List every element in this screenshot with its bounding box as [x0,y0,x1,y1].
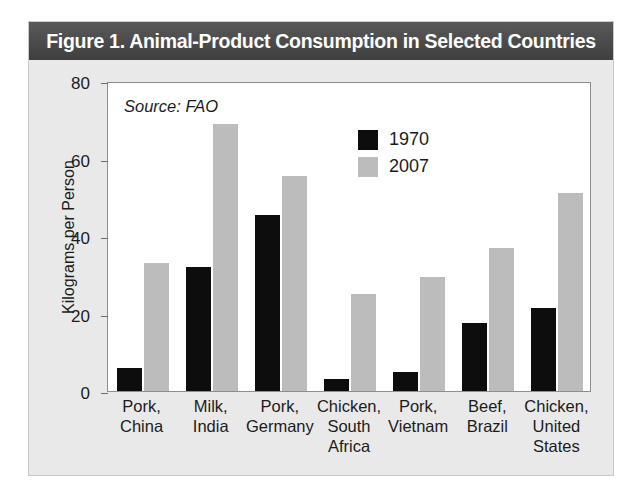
bar-1970-5 [462,323,487,391]
x-axis-label: Pork,China [107,396,176,436]
figure-title-band: Figure 1. Animal-Product Consumption in … [29,22,613,60]
bar-1970-2 [255,215,280,391]
figure-panel: Figure 1. Animal-Product Consumption in … [28,21,614,476]
y-axis-tick-label: 20 [71,306,90,326]
x-axis-label: Chicken,SouthAfrica [314,396,383,456]
x-axis-label-line: Brazil [453,416,522,436]
x-axis-label-line: Pork, [107,396,176,416]
y-axis-tick-label: 80 [71,74,90,94]
y-axis-tick: 60 [101,161,108,162]
bar-1970-4 [393,372,418,391]
x-axis-label-line: Pork, [245,396,314,416]
y-axis-tick-label: 40 [71,229,90,249]
bar-2007-3 [351,294,376,391]
plot-area: Source: FAO 19702007 020406080 [107,82,591,392]
x-axis-label-line: States [522,436,591,456]
bar-2007-5 [489,248,514,391]
x-axis-label-line: Chicken, [314,396,383,416]
y-axis-tick-label: 60 [71,151,90,171]
x-axis-label-line: Pork, [384,396,453,416]
x-axis-labels: Pork,ChinaMilk,IndiaPork,GermanyChicken,… [107,396,591,476]
x-axis-label-line: Germany [245,416,314,436]
x-axis-label-line: China [107,416,176,436]
plot-inner: Source: FAO 19702007 [108,83,590,391]
x-axis-label-line: Beef, [453,396,522,416]
bars-layer [108,83,590,391]
bar-2007-1 [213,124,238,391]
x-axis-label: Pork,Vietnam [384,396,453,436]
x-axis-label: Chicken,UnitedStates [522,396,591,456]
x-axis-label-line: Africa [314,436,383,456]
x-axis-label-line: India [176,416,245,436]
bar-2007-2 [282,176,307,391]
y-axis-tick-label: 0 [81,384,90,404]
bar-1970-6 [531,308,556,391]
figure-container: Figure 1. Animal-Product Consumption in … [0,0,638,503]
bar-1970-0 [117,368,142,391]
y-axis-tick: 20 [101,316,108,317]
bar-2007-6 [558,193,583,391]
x-axis-label: Beef,Brazil [453,396,522,436]
y-axis-tick: 40 [101,238,108,239]
bar-2007-0 [144,263,169,391]
bar-1970-3 [324,379,349,391]
y-axis-tick: 0 [101,393,108,394]
x-axis-label-line: Chicken, [522,396,591,416]
x-axis-label: Milk,India [176,396,245,436]
bar-1970-1 [186,267,211,391]
x-axis-label-line: South [314,416,383,436]
x-axis-label-line: Milk, [176,396,245,416]
bar-2007-4 [420,277,445,391]
x-axis-label-line: Vietnam [384,416,453,436]
x-axis-label: Pork,Germany [245,396,314,436]
x-axis-label-line: United [522,416,591,436]
figure-title: Figure 1. Animal-Product Consumption in … [46,30,596,53]
y-axis-tick: 80 [101,83,108,84]
